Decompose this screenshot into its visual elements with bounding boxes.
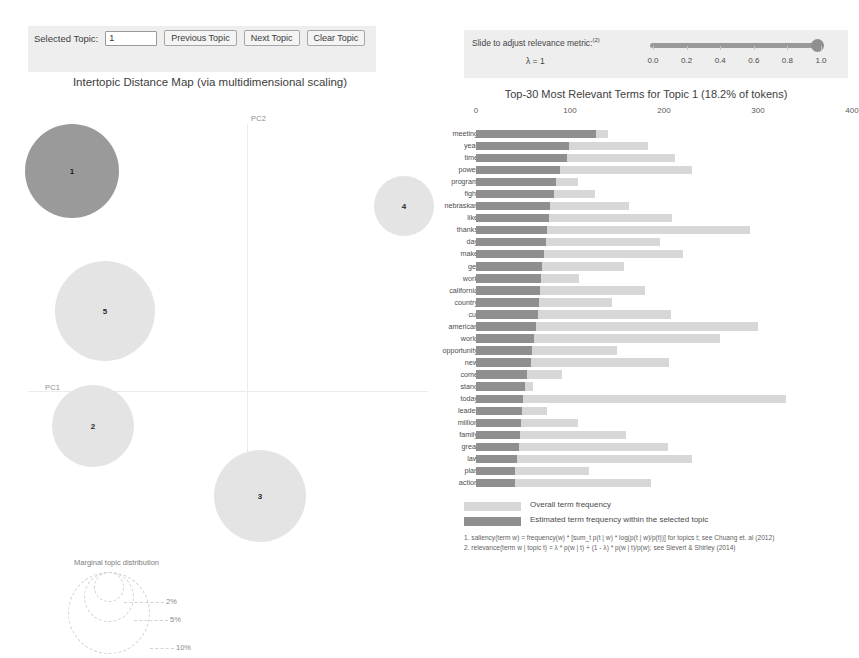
next-topic-button[interactable]: Next Topic	[244, 30, 300, 46]
bar-term-label[interactable]: great	[383, 442, 478, 452]
bar-chart-row[interactable]: get	[440, 261, 852, 273]
bar-topic-frequency[interactable]	[476, 431, 520, 440]
bar-term-label[interactable]: nebraskan	[383, 201, 478, 211]
bar-topic-frequency[interactable]	[476, 214, 549, 223]
topic-bubble-1[interactable]: 1	[25, 124, 119, 218]
previous-topic-button[interactable]: Previous Topic	[164, 30, 236, 46]
bar-term-label[interactable]: stand	[383, 382, 478, 392]
bar-chart-row[interactable]: power	[440, 164, 852, 176]
bar-term-label[interactable]: leader	[383, 406, 478, 416]
bar-chart-row[interactable]: country	[440, 297, 852, 309]
bar-chart-row[interactable]: family	[440, 429, 852, 441]
bar-chart-row[interactable]: meeting	[440, 128, 852, 140]
bar-topic-frequency[interactable]	[476, 407, 522, 416]
bar-term-label[interactable]: program	[383, 177, 478, 187]
bar-topic-frequency[interactable]	[476, 190, 554, 199]
bar-topic-frequency[interactable]	[476, 358, 531, 367]
bar-topic-frequency[interactable]	[476, 226, 547, 235]
bar-chart-row[interactable]: world	[440, 333, 852, 345]
bar-chart-row[interactable]: great	[440, 441, 852, 453]
bar-chart-row[interactable]: nebraskan	[440, 200, 852, 212]
selected-topic-input[interactable]	[105, 31, 157, 46]
bar-term-label[interactable]: world	[383, 334, 478, 344]
bar-chart-row[interactable]: cut	[440, 309, 852, 321]
bar-term-label[interactable]: thanks	[383, 225, 478, 235]
slider-track[interactable]	[650, 43, 818, 48]
bar-term-label[interactable]: new	[383, 358, 478, 368]
bar-chart-row[interactable]: action	[440, 477, 852, 489]
bar-topic-frequency[interactable]	[476, 419, 521, 428]
bar-term-label[interactable]: get	[383, 262, 478, 272]
bar-chart-row[interactable]: million	[440, 417, 852, 429]
bar-term-label[interactable]: come	[383, 370, 478, 380]
bar-topic-frequency[interactable]	[476, 395, 523, 404]
bar-term-label[interactable]: year	[383, 141, 478, 151]
bar-topic-frequency[interactable]	[476, 154, 567, 163]
bar-chart-row[interactable]: opportunity	[440, 345, 852, 357]
bar-term-label[interactable]: work	[383, 274, 478, 284]
bar-topic-frequency[interactable]	[476, 310, 538, 319]
bar-chart-row[interactable]: make	[440, 248, 852, 260]
bar-chart-row[interactable]: day	[440, 236, 852, 248]
bar-chart-row[interactable]: work	[440, 273, 852, 285]
bar-topic-frequency[interactable]	[476, 346, 532, 355]
bar-term-label[interactable]: time	[383, 153, 478, 163]
bar-term-label[interactable]: action	[383, 478, 478, 488]
bar-term-label[interactable]: make	[383, 249, 478, 259]
bar-chart-row[interactable]: today	[440, 393, 852, 405]
bar-term-label[interactable]: california	[383, 286, 478, 296]
bar-chart-row[interactable]: thanks	[440, 224, 852, 236]
clear-topic-button[interactable]: Clear Topic	[307, 30, 366, 46]
bar-topic-frequency[interactable]	[476, 467, 515, 476]
bar-topic-frequency[interactable]	[476, 455, 517, 464]
bar-term-label[interactable]: plan	[383, 466, 478, 476]
bar-topic-frequency[interactable]	[476, 274, 541, 283]
lambda-slider[interactable]: 0.00.20.40.60.81.0	[650, 38, 836, 76]
bar-topic-frequency[interactable]	[476, 479, 515, 488]
bar-term-label[interactable]: country	[383, 298, 478, 308]
bar-term-label[interactable]: day	[383, 237, 478, 247]
bar-topic-frequency[interactable]	[476, 262, 542, 271]
bar-term-label[interactable]: opportunity	[383, 346, 478, 356]
bar-chart-row[interactable]: year	[440, 140, 852, 152]
bar-chart-row[interactable]: program	[440, 176, 852, 188]
bar-topic-frequency[interactable]	[476, 298, 539, 307]
bar-topic-frequency[interactable]	[476, 142, 569, 151]
bar-topic-frequency[interactable]	[476, 370, 527, 379]
bar-topic-frequency[interactable]	[476, 166, 560, 175]
bar-chart-row[interactable]: stand	[440, 381, 852, 393]
bar-chart-row[interactable]: come	[440, 369, 852, 381]
bar-chart-row[interactable]: time	[440, 152, 852, 164]
bar-term-label[interactable]: american	[383, 322, 478, 332]
bar-term-label[interactable]: fight	[383, 189, 478, 199]
bar-term-label[interactable]: power	[383, 165, 478, 175]
bar-topic-frequency[interactable]	[476, 334, 534, 343]
bar-chart-row[interactable]: american	[440, 321, 852, 333]
bar-topic-frequency[interactable]	[476, 202, 550, 211]
bar-chart-row[interactable]: california	[440, 285, 852, 297]
topic-bubble-5[interactable]: 5	[55, 261, 155, 361]
bar-topic-frequency[interactable]	[476, 130, 596, 139]
bar-topic-frequency[interactable]	[476, 286, 540, 295]
bar-term-label[interactable]: today	[383, 394, 478, 404]
bar-term-label[interactable]: meeting	[383, 129, 478, 139]
bar-topic-frequency[interactable]	[476, 322, 536, 331]
bar-term-label[interactable]: family	[383, 430, 478, 440]
bar-chart-row[interactable]: leader	[440, 405, 852, 417]
bar-chart-row[interactable]: new	[440, 357, 852, 369]
bar-topic-frequency[interactable]	[476, 443, 519, 452]
bar-topic-frequency[interactable]	[476, 250, 544, 259]
bar-chart-row[interactable]: fight	[440, 188, 852, 200]
mds-plot-area[interactable]: PC2 PC1 14523 Marginal topic distributio…	[20, 96, 430, 556]
slider-thumb[interactable]	[811, 39, 824, 52]
bar-term-label[interactable]: like	[383, 213, 478, 223]
bar-chart-row[interactable]: law	[440, 453, 852, 465]
bar-topic-frequency[interactable]	[476, 238, 546, 247]
topic-bubble-2[interactable]: 2	[52, 385, 134, 467]
bar-chart-row[interactable]: plan	[440, 465, 852, 477]
bar-chart-row[interactable]: like	[440, 212, 852, 224]
bar-topic-frequency[interactable]	[476, 178, 556, 187]
bar-term-label[interactable]: law	[383, 454, 478, 464]
bar-term-label[interactable]: cut	[383, 310, 478, 320]
bar-topic-frequency[interactable]	[476, 382, 525, 391]
